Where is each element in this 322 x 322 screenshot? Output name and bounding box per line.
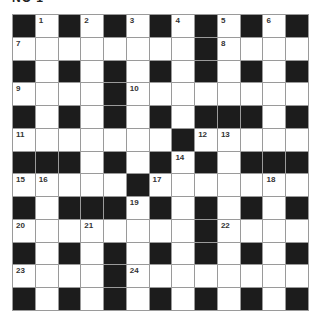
answer-cell[interactable]: [172, 288, 194, 310]
answer-cell[interactable]: [263, 129, 285, 151]
answer-cell[interactable]: 2: [81, 15, 103, 37]
answer-cell[interactable]: 6: [263, 15, 285, 37]
answer-cell[interactable]: [81, 152, 103, 174]
answer-cell[interactable]: 3: [127, 15, 149, 37]
answer-cell[interactable]: [241, 38, 263, 60]
answer-cell[interactable]: [218, 174, 240, 196]
answer-cell[interactable]: [36, 220, 58, 242]
answer-cell[interactable]: [241, 265, 263, 287]
answer-cell[interactable]: [218, 265, 240, 287]
answer-cell[interactable]: [36, 265, 58, 287]
answer-cell[interactable]: 14: [172, 152, 194, 174]
answer-cell[interactable]: [218, 152, 240, 174]
answer-cell[interactable]: [59, 38, 81, 60]
answer-cell[interactable]: [127, 243, 149, 265]
answer-cell[interactable]: [81, 83, 103, 105]
answer-cell[interactable]: 23: [13, 265, 35, 287]
answer-cell[interactable]: [81, 61, 103, 83]
answer-cell[interactable]: [218, 61, 240, 83]
answer-cell[interactable]: [59, 83, 81, 105]
answer-cell[interactable]: 11: [13, 129, 35, 151]
answer-cell[interactable]: [150, 129, 172, 151]
answer-cell[interactable]: [150, 38, 172, 60]
answer-cell[interactable]: [104, 174, 126, 196]
answer-cell[interactable]: [127, 106, 149, 128]
answer-cell[interactable]: [36, 243, 58, 265]
answer-cell[interactable]: [36, 106, 58, 128]
answer-cell[interactable]: [81, 106, 103, 128]
answer-cell[interactable]: 18: [263, 174, 285, 196]
answer-cell[interactable]: [172, 106, 194, 128]
answer-cell[interactable]: [150, 83, 172, 105]
answer-cell[interactable]: [127, 38, 149, 60]
answer-cell[interactable]: [263, 288, 285, 310]
answer-cell[interactable]: 7: [13, 38, 35, 60]
answer-cell[interactable]: [59, 174, 81, 196]
answer-cell[interactable]: [172, 38, 194, 60]
answer-cell[interactable]: [59, 265, 81, 287]
answer-cell[interactable]: [286, 83, 308, 105]
answer-cell[interactable]: [286, 174, 308, 196]
answer-cell[interactable]: [127, 61, 149, 83]
answer-cell[interactable]: [218, 197, 240, 219]
answer-cell[interactable]: [263, 197, 285, 219]
answer-cell[interactable]: [172, 174, 194, 196]
answer-cell[interactable]: [286, 129, 308, 151]
answer-cell[interactable]: [81, 288, 103, 310]
answer-cell[interactable]: 20: [13, 220, 35, 242]
answer-cell[interactable]: [150, 265, 172, 287]
answer-cell[interactable]: [36, 83, 58, 105]
answer-cell[interactable]: [263, 38, 285, 60]
answer-cell[interactable]: [172, 83, 194, 105]
answer-cell[interactable]: [36, 38, 58, 60]
answer-cell[interactable]: 24: [127, 265, 149, 287]
answer-cell[interactable]: 22: [218, 220, 240, 242]
answer-cell[interactable]: [172, 61, 194, 83]
answer-cell[interactable]: [263, 106, 285, 128]
answer-cell[interactable]: 5: [218, 15, 240, 37]
answer-cell[interactable]: [172, 265, 194, 287]
answer-cell[interactable]: 10: [127, 83, 149, 105]
answer-cell[interactable]: [127, 288, 149, 310]
answer-cell[interactable]: [218, 83, 240, 105]
answer-cell[interactable]: 9: [13, 83, 35, 105]
answer-cell[interactable]: [241, 174, 263, 196]
answer-cell[interactable]: [286, 38, 308, 60]
answer-cell[interactable]: [81, 174, 103, 196]
answer-cell[interactable]: [81, 265, 103, 287]
answer-cell[interactable]: [81, 38, 103, 60]
answer-cell[interactable]: 19: [127, 197, 149, 219]
answer-cell[interactable]: [241, 83, 263, 105]
answer-cell[interactable]: [104, 220, 126, 242]
answer-cell[interactable]: [127, 129, 149, 151]
answer-cell[interactable]: [263, 83, 285, 105]
answer-cell[interactable]: [59, 129, 81, 151]
answer-cell[interactable]: [263, 243, 285, 265]
answer-cell[interactable]: [81, 243, 103, 265]
answer-cell[interactable]: [150, 220, 172, 242]
answer-cell[interactable]: [127, 220, 149, 242]
answer-cell[interactable]: 21: [81, 220, 103, 242]
answer-cell[interactable]: [59, 220, 81, 242]
answer-cell[interactable]: [195, 265, 217, 287]
answer-cell[interactable]: [286, 220, 308, 242]
answer-cell[interactable]: [263, 265, 285, 287]
answer-cell[interactable]: [241, 220, 263, 242]
answer-cell[interactable]: 16: [36, 174, 58, 196]
answer-cell[interactable]: [127, 152, 149, 174]
answer-cell[interactable]: [81, 129, 103, 151]
answer-cell[interactable]: [195, 83, 217, 105]
answer-cell[interactable]: [241, 129, 263, 151]
answer-cell[interactable]: 4: [172, 15, 194, 37]
answer-cell[interactable]: [172, 243, 194, 265]
answer-cell[interactable]: 8: [218, 38, 240, 60]
answer-cell[interactable]: 17: [150, 174, 172, 196]
answer-cell[interactable]: [172, 220, 194, 242]
answer-cell[interactable]: [104, 38, 126, 60]
answer-cell[interactable]: 15: [13, 174, 35, 196]
answer-cell[interactable]: [195, 174, 217, 196]
answer-cell[interactable]: [36, 129, 58, 151]
answer-cell[interactable]: [36, 288, 58, 310]
answer-cell[interactable]: [36, 197, 58, 219]
answer-cell[interactable]: [218, 243, 240, 265]
